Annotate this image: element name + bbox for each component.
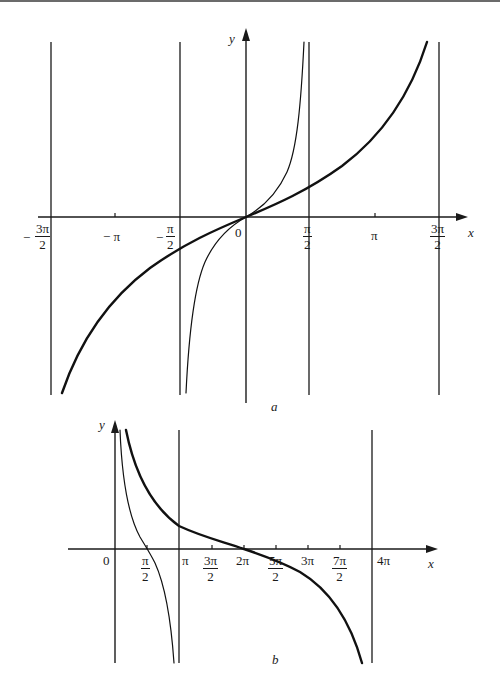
panel-b-x-arrow-icon [426, 545, 438, 553]
panel-b-origin-label: 0 [103, 554, 110, 567]
panel-b-tick-label-2pi: 2π [236, 554, 249, 567]
panel-b-caption: b [272, 653, 279, 666]
panel-b-y-label: y [99, 418, 105, 431]
panel-b-tick-label-3pi: 3π [301, 554, 314, 567]
panel-a-tick-label-neg-3pi-2: 3π 2 [35, 222, 50, 251]
panel-a-tick-label-pi: π [371, 229, 378, 242]
panel-a-y-label: y [229, 32, 235, 45]
panel-a-tick-label-pi-2: π 2 [303, 222, 312, 251]
panel-b-tick-label-3pi-2: 3π 2 [203, 554, 218, 583]
panel-a-y-arrow-icon [242, 28, 250, 41]
panel-a-origin-label: 0 [235, 226, 242, 239]
panel-a-x-arrow-icon [456, 213, 468, 221]
panel-a-tick-label-neg-3pi-2-sign: − [23, 230, 30, 246]
panel-a-tick-label-neg-pi: − π [103, 230, 120, 243]
panel-a-tick-label-neg-pi-2-sign: − [156, 230, 163, 246]
panel-a-x-label: x [468, 226, 474, 239]
panel-b-tick-label-pi: π [182, 554, 189, 567]
panel-a-graph [38, 28, 468, 403]
panel-b-graph [68, 420, 438, 663]
panel-a-tick-label-3pi-2: 3π 2 [430, 222, 445, 251]
panel-b-tick-label-5pi-2: 5π 2 [268, 554, 283, 583]
panel-b-tick-label-4pi: 4π [377, 554, 390, 567]
panel-b-tick-label-pi-2: π 2 [141, 554, 150, 583]
panel-b-y-arrow-icon [111, 420, 119, 433]
figure-graphics [0, 0, 500, 689]
panel-a-tick-label-neg-pi-2: π 2 [166, 222, 175, 251]
panel-b-tick-label-7pi-2: 7π 2 [332, 554, 347, 583]
panel-b-x-label: x [428, 557, 434, 570]
panel-a-caption: a [271, 400, 278, 413]
